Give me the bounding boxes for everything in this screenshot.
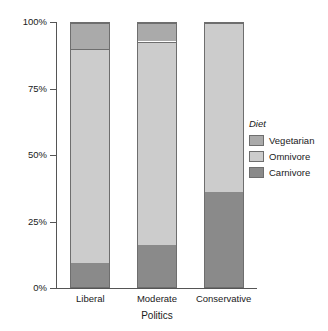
y-tick-label: 50%	[3, 150, 47, 160]
bar-segment-carnivore[interactable]	[138, 245, 176, 287]
bar-group-liberal[interactable]	[70, 22, 110, 288]
y-tick-mark	[50, 288, 56, 289]
y-tick-50: 50%	[0, 155, 56, 156]
stacked-bar[interactable]	[137, 22, 177, 288]
y-tick-mark	[50, 89, 56, 90]
y-tick-100: 100%	[0, 22, 56, 23]
bar-segment-carnivore[interactable]	[71, 263, 109, 287]
y-tick-mark	[50, 22, 56, 23]
x-tick-label-conservative: Conservative	[190, 293, 257, 305]
bar-segment-vegetarian[interactable]	[71, 23, 109, 49]
bar-segment-omnivore[interactable]	[205, 23, 243, 192]
y-tick-25: 25%	[0, 222, 56, 223]
stacked-bar[interactable]	[70, 22, 110, 288]
y-axis-title-text: Percent	[2, 0, 16, 14]
bar-segment-omnivore[interactable]	[71, 49, 109, 263]
legend-item-omnivore[interactable]: Omnivore	[249, 150, 314, 163]
bar-segment-vegetarian[interactable]	[138, 23, 176, 41]
y-tick-0: 0%	[0, 288, 56, 289]
x-tick-label-liberal: Liberal	[57, 293, 124, 305]
bar-group-moderate[interactable]	[137, 22, 177, 288]
y-tick-label: 75%	[3, 84, 47, 94]
legend-label: Vegetarian	[269, 135, 314, 146]
legend-label: Carnivore	[269, 167, 310, 178]
legend: Diet VegetarianOmnivoreCarnivore	[249, 118, 314, 182]
legend-title: Diet	[249, 118, 314, 129]
y-tick-label: 100%	[3, 17, 47, 27]
stacked-bar-chart: Percent 100%75%50%25%0% LiberalModerateC…	[0, 0, 328, 331]
legend-swatch-carnivore	[249, 167, 264, 178]
legend-item-carnivore[interactable]: Carnivore	[249, 166, 314, 179]
y-tick-mark	[50, 222, 56, 223]
y-tick-label: 25%	[3, 217, 47, 227]
y-tick-75: 75%	[0, 89, 56, 90]
bar-segment-omnivore[interactable]	[138, 42, 176, 245]
x-axis-line	[56, 288, 257, 289]
bar-segment-carnivore[interactable]	[205, 192, 243, 287]
x-tick-label-moderate: Moderate	[124, 293, 191, 305]
legend-item-vegetarian[interactable]: Vegetarian	[249, 134, 314, 147]
y-tick-label: 0%	[3, 283, 47, 293]
legend-swatch-omnivore	[249, 151, 264, 162]
x-axis-title: Politics	[57, 310, 257, 322]
legend-swatch-vegetarian	[249, 135, 264, 146]
y-axis-title: Percent	[2, 0, 16, 14]
stacked-bar[interactable]	[204, 22, 244, 288]
y-tick-mark	[50, 155, 56, 156]
plot-area	[57, 22, 257, 288]
legend-label: Omnivore	[269, 151, 310, 162]
legend-items: VegetarianOmnivoreCarnivore	[249, 134, 314, 179]
bar-group-conservative[interactable]	[204, 22, 244, 288]
